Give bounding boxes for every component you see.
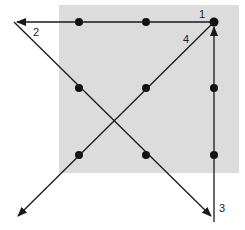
nine-dots-diagram: 1 2 3 4 (0, 0, 245, 230)
label-3: 3 (219, 202, 225, 214)
label-4: 4 (183, 33, 189, 45)
label-2: 2 (33, 26, 39, 38)
label-1: 1 (199, 8, 205, 20)
dot (142, 84, 150, 92)
